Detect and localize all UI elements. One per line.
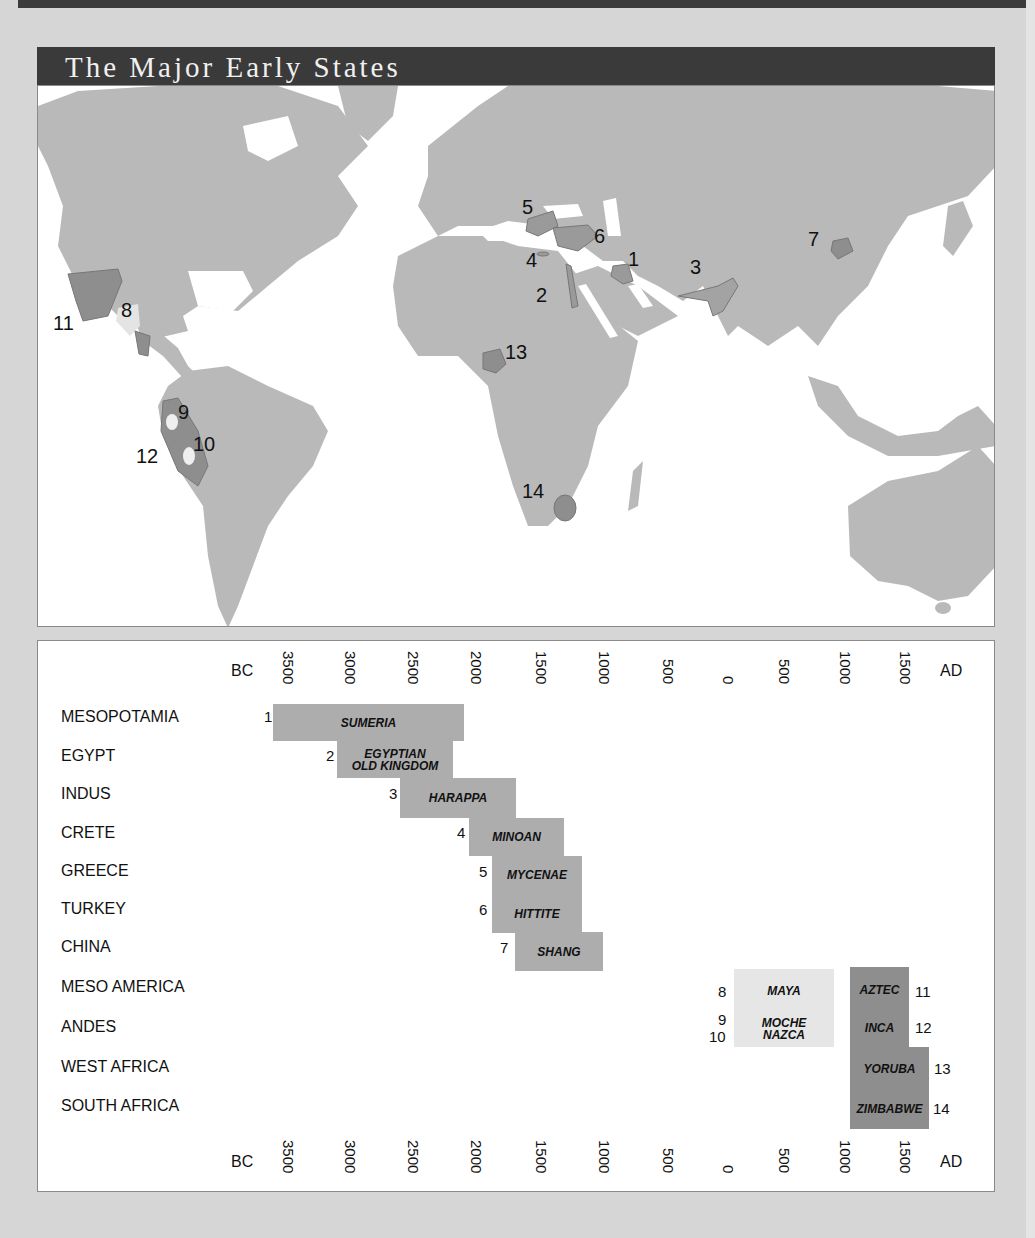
bar-shang: SHANG <box>515 932 603 971</box>
bar-label: MAYA <box>767 985 801 997</box>
region-label-crete: CRETE <box>61 824 115 842</box>
bar-number: 9 <box>718 1011 726 1028</box>
bar-label: NAZCA <box>763 1029 805 1041</box>
axis-tick: 1000 <box>837 651 854 684</box>
axis-tick: 3000 <box>342 1140 359 1173</box>
bar-label: SUMERIA <box>341 717 396 729</box>
bar-number: 7 <box>500 939 508 956</box>
australia <box>848 446 995 601</box>
axis-tick: 3500 <box>280 1140 297 1173</box>
axis-tick: 1500 <box>533 651 550 684</box>
bar-harappa: HARAPPA <box>400 778 516 818</box>
region-label-west-africa: WEST AFRICA <box>61 1058 169 1076</box>
bar-number: 1 <box>264 708 272 725</box>
bar-maya: MAYA <box>734 971 834 1011</box>
madagascar <box>628 461 643 511</box>
bar-number: 4 <box>457 824 465 841</box>
axis-tick: 1000 <box>596 1140 613 1173</box>
indonesia <box>808 376 995 456</box>
axis-tick: 0 <box>720 1165 737 1173</box>
region-label-andes: ANDES <box>61 1018 116 1036</box>
region-14-zimbabwe <box>554 495 576 521</box>
bar-label: HARAPPA <box>429 792 487 804</box>
region-label-china: CHINA <box>61 938 111 956</box>
bar-number: 5 <box>479 863 487 880</box>
map-label-8: 8 <box>121 299 132 322</box>
map-label-13: 13 <box>505 341 527 364</box>
bar-label: YORUBA <box>863 1063 915 1075</box>
axis-tick: 2000 <box>468 1140 485 1173</box>
axis-tick: 3500 <box>280 651 297 684</box>
map-label-9: 9 <box>178 401 189 424</box>
axis-tick: 0 <box>720 676 737 684</box>
bar-number: 6 <box>479 901 487 918</box>
bar-number: 11 <box>915 983 931 1000</box>
map-label-2: 2 <box>536 284 547 307</box>
region-label-south-africa: SOUTH AFRICA <box>61 1097 179 1115</box>
axis-tick: 500 <box>660 659 677 684</box>
axis-tick: 1500 <box>897 651 914 684</box>
map-label-4: 4 <box>526 249 537 272</box>
bar-label: MYCENAE <box>507 869 567 881</box>
bar-label: HITTITE <box>514 908 559 920</box>
bar-label: EGYPTIAN <box>364 748 425 760</box>
axis-label-bc: BC <box>231 1153 253 1171</box>
region-11-aztec <box>68 269 122 321</box>
region-9-moche <box>166 414 178 430</box>
bar-minoan: MINOAN <box>469 818 564 856</box>
world-map: 1 2 3 4 5 6 7 8 9 10 11 12 13 14 <box>37 85 995 627</box>
map-label-7: 7 <box>808 228 819 251</box>
bar-mycenae: MYCENAE <box>492 856 582 894</box>
map-label-3: 3 <box>690 256 701 279</box>
axis-tick: 1500 <box>533 1140 550 1173</box>
region-label-greece: GREECE <box>61 862 129 880</box>
map-label-14: 14 <box>522 480 544 503</box>
bar-number: 14 <box>933 1100 950 1117</box>
bar-label: INCA <box>865 1022 894 1034</box>
bar-egyptian-old-kingdom: EGYPTIAN OLD KINGDOM <box>337 741 453 778</box>
timeline-chart: BC 3500 3000 2500 2000 1500 1000 500 0 5… <box>37 640 995 1192</box>
bar-yoruba: YORUBA <box>850 1049 929 1089</box>
map-label-6: 6 <box>594 225 605 248</box>
bar-hittite: HITTITE <box>492 894 582 933</box>
axis-tick: 1000 <box>596 651 613 684</box>
axis-label-ad: AD <box>940 662 962 680</box>
bar-label: OLD KINGDOM <box>352 760 439 772</box>
axis-tick: 2500 <box>405 651 422 684</box>
axis-tick: 2500 <box>405 1140 422 1173</box>
bar-number: 8 <box>718 983 726 1000</box>
page-title: The Major Early States <box>37 47 995 85</box>
region-label-indus: INDUS <box>61 785 111 803</box>
bar-number: 13 <box>934 1060 951 1077</box>
axis-tick: 1000 <box>837 1140 854 1173</box>
bar-label: SHANG <box>537 946 580 958</box>
map-label-1: 1 <box>628 248 639 271</box>
axis-tick: 500 <box>776 659 793 684</box>
bar-label: MINOAN <box>492 831 541 843</box>
region-label-turkey: TURKEY <box>61 900 126 918</box>
region-label-egypt: EGYPT <box>61 747 115 765</box>
map-label-10: 10 <box>193 433 215 456</box>
region-label-mesopotamia: MESOPOTAMIA <box>61 708 179 726</box>
region-label-meso-america: MESO AMERICA <box>61 978 185 996</box>
top-axis: BC 3500 3000 2500 2000 1500 1000 500 0 5… <box>38 641 994 691</box>
axis-label-bc: BC <box>231 662 253 680</box>
bar-zimbabwe: ZIMBABWE <box>850 1089 929 1129</box>
bar-aztec: AZTEC <box>850 971 909 1009</box>
top-decorative-bar <box>18 0 1026 8</box>
bottom-axis: BC 3500 3000 2500 2000 1500 1000 500 0 5… <box>38 1134 994 1184</box>
bar-moche-nazca: MOCHE NAZCA <box>734 1011 834 1047</box>
axis-tick: 2000 <box>468 651 485 684</box>
tasmania <box>935 602 951 614</box>
region-4-minoan <box>537 252 549 256</box>
axis-tick: 1500 <box>897 1140 914 1173</box>
bar-label: AZTEC <box>860 984 900 996</box>
map-label-11: 11 <box>53 312 74 335</box>
bar-label: ZIMBABWE <box>857 1103 923 1115</box>
bar-inca: INCA <box>850 1009 909 1047</box>
map-label-12: 12 <box>136 445 158 468</box>
map-label-5: 5 <box>522 196 533 219</box>
japan <box>943 201 973 256</box>
axis-tick: 500 <box>660 1148 677 1173</box>
axis-tick: 500 <box>776 1148 793 1173</box>
